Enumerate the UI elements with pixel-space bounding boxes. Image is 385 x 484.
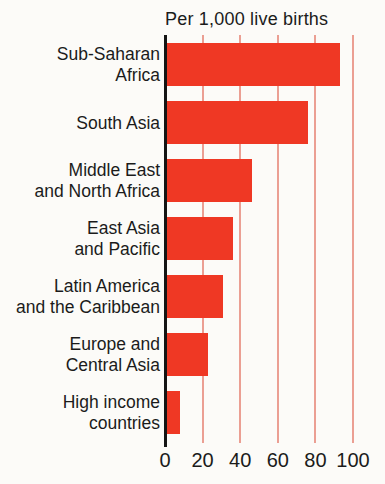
bar-south-asia <box>167 101 308 144</box>
chart-figure: Per 1,000 live births Sub-SaharanAfricaS… <box>0 0 385 484</box>
bar-high-income-countries <box>167 391 180 434</box>
bar-sub-saharan-africa <box>167 43 340 86</box>
x-tick-label-40: 40 <box>229 449 251 472</box>
category-label-high-income-countries: High incomecountries <box>0 392 160 434</box>
category-label-south-asia: South Asia <box>0 112 160 133</box>
bar-europe-and-central-asia <box>167 333 208 376</box>
gridline-x-80 <box>314 35 316 443</box>
plot-area: Sub-SaharanAfricaSouth AsiaMiddle Eastan… <box>0 0 385 484</box>
category-label-east-asia-and-pacific: East Asiaand Pacific <box>0 218 160 260</box>
x-tick-label-100: 100 <box>336 449 369 472</box>
category-label-europe-and-central-asia: Europe andCentral Asia <box>0 334 160 376</box>
category-label-latin-america-and-the-caribbean: Latin Americaand the Caribbean <box>0 276 160 318</box>
gridline-x-100 <box>352 35 354 443</box>
bar-east-asia-and-pacific <box>167 217 233 260</box>
bar-middle-east-and-north-africa <box>167 159 252 202</box>
gridline-x-60 <box>277 35 279 443</box>
category-label-middle-east-and-north-africa: Middle Eastand North Africa <box>0 160 160 202</box>
category-label-sub-saharan-africa: Sub-SaharanAfrica <box>0 44 160 86</box>
x-tick-label-60: 60 <box>267 449 289 472</box>
gridline-x-40 <box>239 35 241 443</box>
x-tick-label-80: 80 <box>304 449 326 472</box>
bar-latin-america-and-the-caribbean <box>167 275 223 318</box>
x-tick-label-0: 0 <box>159 449 170 472</box>
x-tick-label-20: 20 <box>191 449 213 472</box>
